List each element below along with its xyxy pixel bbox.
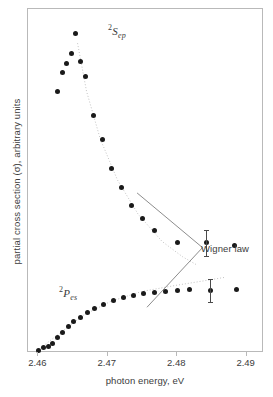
data-point	[175, 288, 180, 293]
data-point	[78, 315, 83, 320]
data-point	[69, 51, 74, 56]
data-point	[60, 70, 65, 75]
error-bar-cap	[208, 302, 213, 303]
data-point	[64, 61, 69, 66]
error-bar-cap	[204, 256, 209, 257]
data-point	[92, 306, 97, 311]
series-label-subscript: es	[70, 293, 77, 302]
x-axis-title: photon energy, eV	[27, 375, 263, 386]
x-axis-tick-mark	[176, 352, 177, 356]
series-label-2Sep: 2Sep	[108, 23, 126, 40]
error-bar-cap	[204, 230, 209, 231]
x-axis-tick-labels: 2.462.472.482.49	[0, 357, 273, 371]
x-axis-tick-mark	[107, 352, 108, 356]
x-axis-tick-label: 2.48	[167, 357, 186, 368]
x-axis-tick-label: 2.47	[98, 357, 117, 368]
data-point	[152, 228, 157, 233]
x-axis-tick-mark	[37, 352, 38, 356]
annotation-leader-line	[137, 193, 202, 248]
annotation-wigner-law: Wigner law	[201, 243, 249, 254]
data-point	[175, 240, 180, 245]
x-axis-tick-mark	[246, 352, 247, 356]
error-bar	[210, 279, 211, 302]
data-point	[101, 302, 106, 307]
wigner-law-guide-curves	[38, 43, 224, 349]
error-bar-cap	[208, 279, 213, 280]
x-axis-tick-label: 2.49	[236, 357, 255, 368]
annotation-leader-line	[147, 248, 203, 308]
figure-container: 2Sep 2Pes Wigner law 2.462.472.482.49 ph…	[0, 0, 273, 397]
data-point	[163, 289, 168, 294]
data-point	[131, 293, 136, 298]
data-point	[85, 310, 90, 315]
y-axis-title: partial cross section (σ), arbitrary uni…	[11, 67, 22, 297]
data-point	[100, 137, 105, 142]
data-point	[152, 290, 157, 295]
data-point	[119, 185, 124, 190]
data-point	[129, 203, 134, 208]
plot-frame: 2Sep 2Pes	[27, 8, 263, 352]
series-label-2Pes: 2Pes	[59, 285, 77, 302]
x-axis-tick-label: 2.46	[28, 357, 47, 368]
guide-curve-wigner-upper	[78, 43, 197, 265]
series-label-subscript: ep	[118, 31, 126, 40]
